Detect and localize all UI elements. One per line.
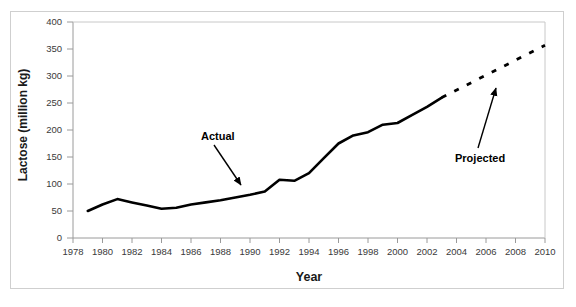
y-tick-label-150: 150 xyxy=(32,151,62,162)
series-line-actual xyxy=(88,98,442,211)
y-tick-label-50: 50 xyxy=(32,205,62,216)
annotation-label-projected: Projected xyxy=(455,152,505,164)
y-axis-title: Lactose (million kg) xyxy=(16,50,30,200)
y-tick-label-0: 0 xyxy=(32,232,62,243)
annotation-arrow-projected xyxy=(478,88,496,148)
y-tick-label-400: 400 xyxy=(32,16,62,27)
annotation-label-actual: Actual xyxy=(201,130,235,142)
x-axis-title: Year xyxy=(73,270,545,284)
annotation-arrow-actual xyxy=(214,145,241,185)
y-tick-label-350: 350 xyxy=(32,43,62,54)
y-tick-label-100: 100 xyxy=(32,178,62,189)
y-tick-label-250: 250 xyxy=(32,97,62,108)
series-line-projected xyxy=(442,45,545,97)
x-tick-label-2010: 2010 xyxy=(528,246,562,257)
y-tick-label-200: 200 xyxy=(32,124,62,135)
x-axis-ticks xyxy=(73,238,545,243)
y-tick-label-300: 300 xyxy=(32,70,62,81)
y-axis-ticks xyxy=(67,22,73,238)
